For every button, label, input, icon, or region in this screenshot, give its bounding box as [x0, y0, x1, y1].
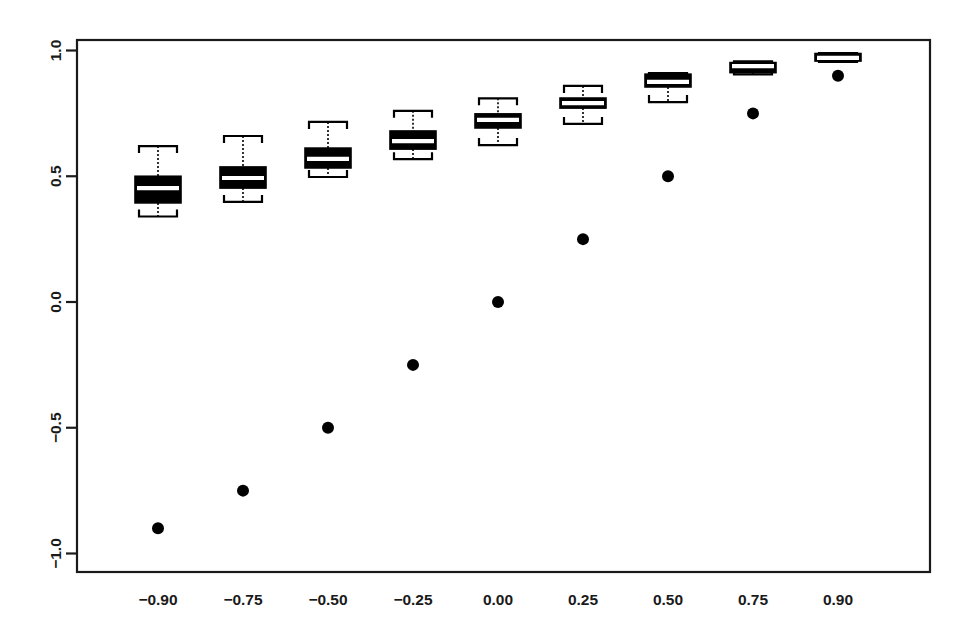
reference-point — [322, 422, 334, 434]
x-axis-tick-labels: −0.90−0.75−0.50−0.250.000.250.500.750.90 — [138, 591, 853, 608]
x-axis-tick-label: 0.50 — [653, 591, 683, 608]
reference-point — [577, 233, 589, 245]
y-axis-tick-label: 0.0 — [47, 291, 64, 313]
x-axis-tick-label: −0.50 — [308, 591, 347, 608]
x-axis-tick-label: 0.75 — [738, 591, 769, 608]
y-axis-tick-label: −0.5 — [47, 412, 64, 443]
x-axis-tick-label: 0.00 — [483, 591, 513, 608]
reference-point — [662, 170, 674, 182]
reference-point — [407, 359, 419, 371]
x-axis-tick-label: −0.90 — [138, 591, 177, 608]
boxplot-group — [815, 53, 861, 62]
x-axis-tick-label: 0.25 — [568, 591, 599, 608]
reference-point — [237, 485, 249, 497]
y-axis-tick-label: −1.0 — [47, 538, 64, 569]
figure-background — [0, 0, 955, 634]
reference-point — [152, 522, 164, 534]
y-axis-tick-label: 1.0 — [47, 40, 64, 62]
y-axis-tick-label: 0.5 — [47, 165, 64, 187]
x-axis-tick-label: −0.75 — [223, 591, 263, 608]
reference-point — [832, 70, 844, 82]
reference-point — [747, 107, 759, 119]
reference-point — [492, 296, 504, 308]
boxplot-group — [730, 61, 776, 74]
chart-canvas: 1.00.50.0−0.5−1.0 −0.90−0.75−0.50−0.250.… — [0, 0, 955, 634]
boxplot-figure: 1.00.50.0−0.5−1.0 −0.90−0.75−0.50−0.250.… — [0, 0, 955, 634]
x-axis-tick-label: −0.25 — [393, 591, 433, 608]
x-axis-tick-label: 0.90 — [823, 591, 853, 608]
